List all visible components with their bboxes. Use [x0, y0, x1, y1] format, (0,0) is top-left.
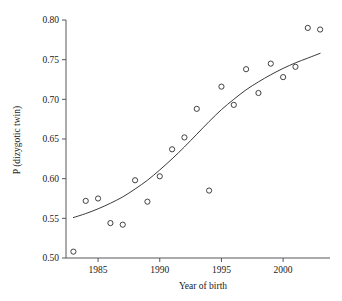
dizygotic-twin-scatter-chart: 0.500.550.600.650.700.750.80 19851990199… — [0, 0, 342, 301]
data-point-marker — [132, 178, 137, 183]
x-tick-label: 1985 — [89, 265, 108, 275]
data-point-marker — [318, 27, 323, 32]
fitted-curve-path — [73, 53, 320, 217]
data-point-marker — [157, 174, 162, 179]
y-tick-label: 0.60 — [42, 174, 59, 184]
chart-canvas: 0.500.550.600.650.700.750.80 19851990199… — [0, 0, 342, 301]
data-point-marker — [244, 67, 249, 72]
data-point-marker — [120, 222, 125, 227]
data-point-marker — [182, 135, 187, 140]
data-point-marker — [207, 188, 212, 193]
y-tick-label: 0.80 — [42, 15, 59, 25]
data-point-marker — [293, 64, 298, 69]
data-point-marker — [95, 196, 100, 201]
x-tick-label: 2000 — [274, 265, 293, 275]
y-axis: 0.500.550.600.650.700.750.80 — [42, 15, 66, 263]
data-point-marker — [268, 61, 273, 66]
data-point-marker — [256, 90, 261, 95]
data-point-marker — [305, 25, 310, 30]
fitted-curve — [73, 53, 320, 217]
data-point-marker — [145, 199, 150, 204]
x-tick-label: 1990 — [150, 265, 169, 275]
y-tick-label: 0.75 — [42, 55, 59, 65]
y-tick-label: 0.65 — [42, 134, 59, 144]
data-points — [71, 25, 323, 254]
y-tick-label: 0.70 — [42, 95, 59, 105]
y-tick-label: 0.55 — [42, 214, 59, 224]
x-tick-label: 1995 — [212, 265, 231, 275]
data-point-marker — [83, 198, 88, 203]
x-axis: 1985199019952000 — [66, 258, 330, 275]
data-point-marker — [231, 102, 236, 107]
data-point-marker — [219, 84, 224, 89]
y-tick-label: 0.50 — [42, 253, 59, 263]
data-point-marker — [169, 147, 174, 152]
y-axis-title: P (dizygotic twin) — [12, 106, 23, 174]
data-point-marker — [194, 106, 199, 111]
x-axis-title: Year of birth — [179, 281, 227, 291]
data-point-marker — [71, 249, 76, 254]
data-point-marker — [108, 220, 113, 225]
data-point-marker — [281, 75, 286, 80]
